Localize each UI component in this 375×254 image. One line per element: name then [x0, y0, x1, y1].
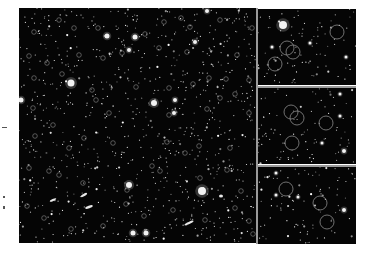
- faint-source: [143, 157, 144, 158]
- faint-source: [312, 175, 313, 176]
- faint-source: [178, 87, 179, 88]
- faint-source: [37, 96, 38, 97]
- faint-source: [41, 120, 42, 121]
- faint-source: [183, 70, 184, 71]
- faint-source: [298, 184, 300, 186]
- faint-source: [214, 226, 215, 227]
- faint-source: [274, 92, 275, 93]
- faint-source: [135, 28, 136, 29]
- faint-source: [32, 99, 33, 100]
- faint-source: [253, 207, 254, 208]
- faint-source: [75, 233, 76, 234]
- faint-source: [46, 152, 47, 153]
- faint-source: [281, 196, 282, 197]
- faint-source: [157, 55, 158, 56]
- faint-source: [259, 182, 260, 183]
- faint-source: [226, 71, 227, 72]
- faint-source: [288, 157, 289, 158]
- faint-source: [96, 56, 97, 57]
- faint-source: [73, 194, 74, 195]
- faint-source: [229, 159, 230, 160]
- faint-source: [132, 16, 133, 17]
- faint-source: [219, 127, 220, 128]
- candidate-circle: [233, 206, 238, 211]
- faint-source: [346, 28, 347, 29]
- faint-source: [77, 176, 78, 177]
- faint-source: [202, 228, 203, 229]
- faint-source: [210, 173, 211, 174]
- faint-source: [313, 36, 314, 37]
- faint-source: [133, 19, 134, 20]
- faint-source: [22, 139, 23, 140]
- faint-source: [210, 49, 211, 50]
- faint-source: [331, 230, 332, 231]
- faint-source: [21, 58, 22, 59]
- faint-source: [218, 153, 219, 154]
- faint-source: [30, 141, 31, 142]
- faint-source: [259, 128, 260, 129]
- faint-source: [315, 171, 316, 172]
- faint-source: [187, 198, 188, 199]
- faint-source: [345, 67, 346, 68]
- elongated-galaxy: [85, 204, 93, 209]
- faint-source: [184, 134, 185, 135]
- faint-source: [238, 12, 239, 13]
- faint-source: [41, 35, 42, 36]
- bright-source: [193, 40, 197, 44]
- faint-source: [194, 113, 195, 114]
- faint-source: [156, 237, 157, 238]
- faint-source: [170, 153, 171, 154]
- faint-source: [72, 154, 73, 155]
- faint-source: [266, 176, 268, 178]
- faint-source: [175, 219, 176, 220]
- faint-source: [153, 177, 154, 178]
- faint-source: [282, 143, 283, 144]
- faint-source: [33, 182, 34, 183]
- faint-source: [219, 167, 220, 168]
- faint-source: [79, 152, 80, 153]
- faint-source: [206, 158, 207, 159]
- faint-source: [324, 106, 325, 107]
- candidate-circle: [158, 169, 163, 174]
- faint-source: [154, 90, 155, 91]
- faint-source: [182, 191, 183, 192]
- faint-source: [138, 50, 139, 51]
- faint-source: [250, 104, 251, 105]
- faint-source: [223, 185, 224, 186]
- faint-source: [82, 229, 84, 231]
- candidate-circle: [205, 107, 210, 112]
- faint-source: [117, 191, 118, 192]
- faint-source: [213, 107, 214, 108]
- candidate-circle: [67, 146, 72, 151]
- faint-source: [59, 54, 60, 55]
- faint-source: [140, 147, 141, 148]
- faint-source: [176, 59, 177, 60]
- faint-source: [44, 44, 45, 45]
- faint-source: [325, 33, 326, 34]
- faint-source: [245, 21, 246, 22]
- faint-source: [329, 187, 330, 188]
- faint-source: [71, 158, 72, 159]
- faint-source: [29, 152, 30, 153]
- faint-source: [303, 201, 304, 202]
- faint-source: [227, 54, 229, 56]
- faint-source: [121, 126, 122, 127]
- faint-source: [107, 221, 108, 222]
- faint-source: [246, 164, 247, 165]
- faint-source: [91, 20, 92, 21]
- faint-source: [348, 139, 349, 140]
- faint-source: [90, 112, 91, 113]
- faint-source: [209, 48, 210, 49]
- faint-source: [280, 134, 281, 135]
- faint-source: [199, 151, 200, 152]
- faint-source: [164, 187, 165, 188]
- faint-source: [56, 88, 57, 89]
- faint-source: [101, 82, 102, 83]
- faint-source: [211, 10, 212, 11]
- faint-source: [300, 54, 301, 55]
- faint-source: [207, 151, 208, 152]
- faint-source: [238, 100, 239, 101]
- faint-source: [66, 166, 67, 167]
- faint-source: [200, 79, 201, 80]
- faint-source: [86, 92, 87, 93]
